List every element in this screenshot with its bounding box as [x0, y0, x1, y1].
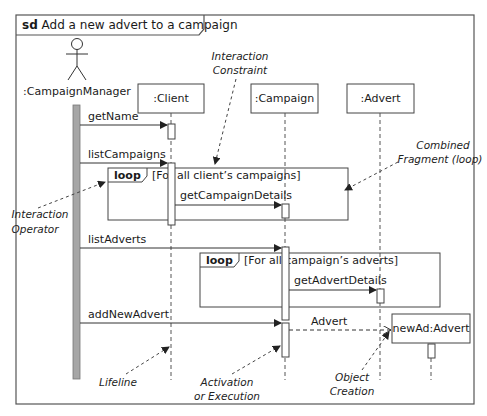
svg-text:Operator: Operator	[12, 223, 60, 235]
annotation-lifeline: Lifeline	[99, 347, 169, 388]
annotation-interaction-operator: Interaction Operator	[12, 182, 106, 235]
svg-text:Fragment (loop): Fragment (loop)	[398, 153, 483, 165]
actor-head-icon	[72, 39, 83, 50]
loop-operator: loop	[206, 254, 233, 267]
svg-text:Object: Object	[335, 371, 370, 383]
campaign-activation-details	[282, 204, 289, 218]
lifeline-campaign-label: :Campaign	[255, 92, 315, 105]
loop-guard: [For all campaign’s adverts]	[244, 254, 398, 267]
campaign-activation-listadverts	[282, 247, 289, 320]
annotation-combined-fragment: Combined Fragment (loop)	[345, 139, 482, 190]
message-listadverts: listAdverts	[80, 233, 281, 248]
message-addnewadvert: addNewAdvert	[80, 308, 281, 323]
svg-text:getAdvertDetails: getAdvertDetails	[294, 274, 387, 287]
svg-text:Creation: Creation	[330, 385, 375, 397]
message-getadvertdetails: getAdvertDetails	[289, 274, 387, 290]
created-object-newad: newAd:Advert	[392, 314, 470, 380]
actor-activation-bar	[73, 105, 80, 379]
client-activation-listcampaigns	[168, 163, 175, 225]
annotation-activation: Activation or Execution	[194, 346, 280, 402]
svg-text:Interaction: Interaction	[212, 50, 269, 62]
client-activation-getname	[168, 124, 175, 139]
svg-text:getName: getName	[88, 110, 139, 123]
frame-title: sd Add a new advert to a campaign	[22, 18, 238, 32]
svg-text:listCampaigns: listCampaigns	[88, 148, 166, 161]
svg-text:addNewAdvert: addNewAdvert	[88, 308, 170, 321]
lifeline-advert-label: :Advert	[360, 92, 401, 105]
sequence-diagram: sd Add a new advert to a campaign :Campa…	[0, 0, 487, 416]
annotation-object-creation: Object Creation	[330, 332, 389, 397]
actor-label: :CampaignManager	[23, 85, 131, 98]
lifeline-client-label: :Client	[153, 92, 189, 105]
message-getcampaigndetails: getCampaignDetails	[175, 189, 292, 205]
actor-campaign-manager: :CampaignManager	[23, 39, 131, 99]
loop-operator: loop	[114, 169, 141, 182]
svg-text:Lifeline: Lifeline	[99, 376, 137, 388]
svg-text:Interaction: Interaction	[12, 208, 69, 220]
campaign-activation-addnewadvert	[282, 323, 289, 357]
created-object-label: newAd:Advert	[392, 322, 470, 335]
svg-text:Advert: Advert	[311, 315, 348, 328]
message-listcampaigns: listCampaigns	[80, 148, 167, 163]
message-create-advert: Advert	[289, 315, 391, 330]
svg-text:Constraint: Constraint	[213, 64, 268, 76]
svg-text:Combined: Combined	[416, 139, 470, 151]
svg-text:Activation: Activation	[200, 376, 254, 388]
svg-text:listAdverts: listAdverts	[88, 233, 147, 246]
svg-text:or Execution: or Execution	[194, 390, 260, 402]
svg-text:getCampaignDetails: getCampaignDetails	[180, 189, 292, 202]
advert-activation-details	[377, 289, 384, 303]
